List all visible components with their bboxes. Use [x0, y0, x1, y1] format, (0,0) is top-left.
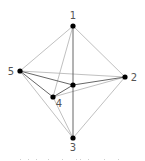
edge-1-5 [20, 26, 73, 71]
edge-5-2 [20, 71, 125, 77]
node-c [70, 82, 75, 87]
edge-4-2 [53, 77, 125, 97]
node-3 [70, 135, 75, 140]
edge-2-3 [73, 77, 125, 138]
edge-c-2 [73, 77, 125, 85]
graph-edges [20, 26, 125, 138]
edge-1-2 [73, 26, 125, 77]
node-2 [122, 74, 127, 79]
node-label-5: 5 [8, 66, 14, 77]
node-1 [70, 23, 75, 28]
edge-5-3 [20, 71, 73, 138]
node-label-2: 2 [131, 72, 137, 83]
graph-labels: 12345 [8, 10, 137, 153]
graph-diagram: 12345 [0, 0, 145, 161]
node-5 [17, 68, 22, 73]
edge-5-c [20, 71, 73, 85]
node-label-4: 4 [56, 98, 62, 109]
cropped-caption-text [0, 152, 145, 161]
node-label-1: 1 [70, 10, 76, 21]
node-4 [50, 94, 55, 99]
